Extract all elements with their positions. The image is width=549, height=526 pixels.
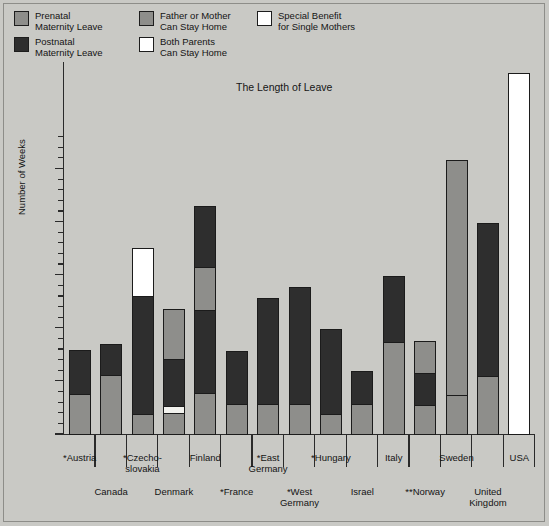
x-axis-label: Sweden (439, 452, 473, 463)
x-label-line1: United (474, 486, 501, 497)
x-label-line2: Germany (280, 497, 319, 508)
x-label-line1: Finland (190, 452, 221, 463)
x-axis-label: Italy (385, 452, 402, 463)
x-label-line1: Israel (351, 486, 374, 497)
x-axis-label: USA (510, 452, 530, 463)
x-label-line1: *France (220, 486, 253, 497)
x-label-line2: Kingdom (469, 497, 507, 508)
x-label-line1: **Norway (405, 486, 445, 497)
x-label-line1: *West (287, 486, 312, 497)
y-axis-ticks: 01020304050 (0, 0, 64, 526)
x-axis-label: *Czecho-slovakia (123, 452, 162, 474)
chart-plot-area: The Length of Leave Number of Weeks 0102… (0, 0, 549, 526)
x-label-line1: Italy (385, 452, 402, 463)
x-label-line1: Canada (94, 486, 127, 497)
x-axis-label: Canada (94, 486, 127, 497)
x-axis-labels: *AustriaCanada*Czecho-slovakiaDenmarkFin… (63, 0, 534, 526)
x-axis-label: *WestGermany (280, 486, 319, 508)
chart-frame: Prenatal Maternity Leave Postnatal Mater… (0, 0, 549, 526)
x-axis-label: *EastGermany (249, 452, 288, 474)
x-label-line1: USA (510, 452, 530, 463)
x-axis-label: *Hungary (311, 452, 351, 463)
x-axis-label: UnitedKingdom (469, 486, 507, 508)
x-axis-label: Israel (351, 486, 374, 497)
x-tick (534, 434, 535, 467)
x-axis-label: **Norway (405, 486, 445, 497)
x-axis-label: Denmark (155, 486, 194, 497)
x-label-line1: *Hungary (311, 452, 351, 463)
x-axis-label: *Austria (63, 452, 96, 463)
x-label-line1: *East (257, 452, 280, 463)
x-axis-label: *France (220, 486, 253, 497)
x-label-line1: *Czecho- (123, 452, 162, 463)
x-label-line1: Denmark (155, 486, 194, 497)
x-label-line1: Sweden (439, 452, 473, 463)
x-label-line2: slovakia (125, 463, 159, 474)
x-axis-label: Finland (190, 452, 221, 463)
x-label-line1: *Austria (63, 452, 96, 463)
x-label-line2: Germany (249, 463, 288, 474)
